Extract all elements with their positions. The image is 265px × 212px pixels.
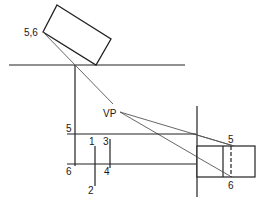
label-mark1: 1 [89, 136, 95, 147]
projector-to-vp [43, 32, 113, 104]
label-plan-corner: 5,6 [24, 27, 38, 38]
plan-rectangle [43, 5, 111, 65]
label-line5-left: 5 [66, 123, 72, 134]
label-mark3: 3 [103, 136, 109, 147]
label-mark2: 2 [88, 185, 94, 196]
label-elev5: 5 [228, 134, 234, 145]
label-elev6: 6 [228, 180, 234, 191]
perspective-diagram: 5,6 VP 5 6 1 2 3 4 5 6 [0, 0, 265, 212]
label-vp: VP [103, 108, 117, 119]
label-mark4: 4 [104, 166, 110, 177]
label-line6-left: 6 [66, 166, 72, 177]
